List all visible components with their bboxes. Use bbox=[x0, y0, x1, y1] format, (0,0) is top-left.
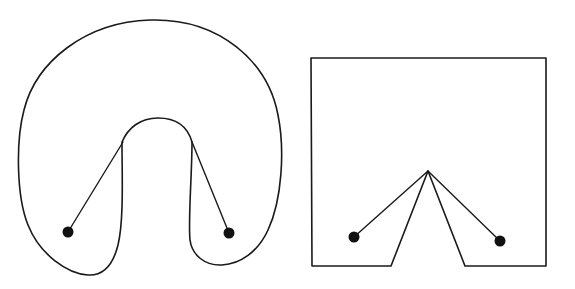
left-path-line bbox=[68, 142, 123, 232]
notched-square-outline bbox=[311, 58, 546, 266]
right-point-dot bbox=[495, 236, 506, 247]
right-apex-line bbox=[428, 171, 500, 241]
polygonal-region-panel bbox=[311, 58, 546, 266]
right-point-dot bbox=[224, 228, 235, 239]
right-path-line bbox=[192, 142, 229, 233]
curved-region-panel bbox=[18, 20, 281, 275]
left-point-dot bbox=[63, 227, 74, 238]
diagram-canvas bbox=[0, 0, 575, 289]
left-apex-line bbox=[354, 171, 428, 237]
left-point-dot bbox=[349, 232, 360, 243]
horseshoe-outline bbox=[18, 20, 281, 275]
diagram-svg bbox=[0, 0, 575, 289]
